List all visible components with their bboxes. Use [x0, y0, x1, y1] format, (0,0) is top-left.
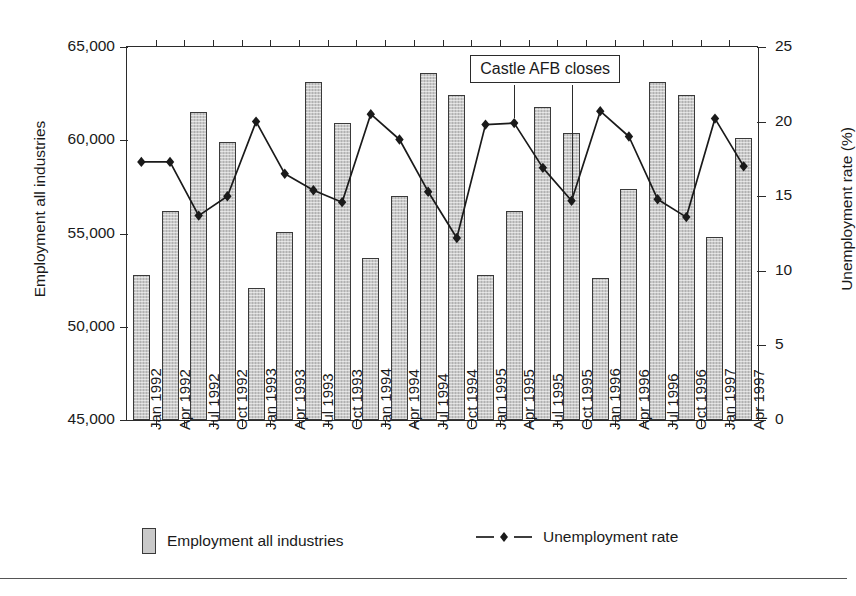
x-tick-top [615, 40, 616, 47]
annotation-leader-line [572, 85, 573, 196]
x-tick-top [729, 40, 730, 47]
x-tick-label: Apr 1996 [635, 369, 652, 430]
x-tick-top [701, 40, 702, 47]
line-series-unemployment [127, 47, 758, 420]
x-tick-label: Apr 1993 [291, 369, 308, 430]
y-tick-label-right: 25 [775, 37, 792, 55]
legend-label-employment: Employment all industries [167, 532, 344, 550]
x-tick-top [242, 40, 243, 47]
x-tick-top [672, 40, 673, 47]
axis-right-line [758, 47, 759, 420]
y-tick-label-left: 50,000 [68, 317, 115, 335]
line-marker-diamond [281, 169, 289, 179]
y-tick-label-left: 65,000 [68, 37, 115, 55]
x-tick-top [443, 40, 444, 47]
y-tick-right [757, 122, 766, 123]
x-tick-top [184, 40, 185, 47]
y-tick-right [757, 47, 766, 48]
line-marker-diamond [481, 119, 489, 129]
y-tick-label-right: 0 [775, 410, 784, 428]
x-tick-top [356, 40, 357, 47]
bar-swatch-icon [142, 528, 156, 554]
y-tick-label-right: 5 [775, 335, 784, 353]
x-tick-label: Jul 1993 [319, 373, 336, 430]
x-tick-top [557, 40, 558, 47]
x-tick-top [500, 40, 501, 47]
y-tick-label-right: 10 [775, 261, 792, 279]
plot-area: 45,00050,00055,00060,00065,000 051015202… [127, 47, 758, 420]
legend-item-unemployment: Unemployment rate [476, 528, 678, 546]
line-marker-diamond [653, 194, 661, 204]
y-axis-left-title: Employment all industries [31, 79, 49, 339]
x-tick-label: Jan 1996 [606, 368, 623, 430]
legend-label-unemployment: Unemployment rate [543, 528, 678, 546]
line-marker-diamond [137, 157, 145, 167]
line-marker-diamond [309, 185, 317, 195]
x-tick-label: Apr 1994 [405, 369, 422, 430]
legend-item-employment: Employment all industries [142, 528, 344, 554]
x-tick-label: Jul 1996 [664, 373, 681, 430]
annotation-leader-line [514, 85, 515, 118]
x-tick-top [586, 40, 587, 47]
x-tick-top [529, 40, 530, 47]
bottom-divider-rule [0, 578, 847, 579]
annotation-castle-afb-closes: Castle AFB closes [470, 55, 620, 83]
x-tick-label: Oct 1993 [348, 369, 365, 430]
dashed-line-diamond-icon [476, 531, 532, 543]
x-tick-top [471, 40, 472, 47]
y-tick-right [757, 271, 766, 272]
x-tick-top [156, 40, 157, 47]
line-marker-diamond [223, 191, 231, 201]
line-marker-diamond [338, 197, 346, 207]
x-tick-label: Apr 1992 [176, 369, 193, 430]
x-tick-label: Jan 1994 [377, 368, 394, 430]
x-tick-top [299, 40, 300, 47]
y-axis-right-title: Unemployment rate (%) [838, 79, 856, 339]
y-tick-label-left: 55,000 [68, 224, 115, 242]
y-tick-left [120, 420, 128, 421]
x-tick-top [328, 40, 329, 47]
x-tick-label: Apr 1995 [520, 369, 537, 430]
x-tick-top [643, 40, 644, 47]
line-marker-diamond [195, 210, 203, 220]
x-tick-top [270, 40, 271, 47]
y-tick-label-right: 15 [775, 186, 792, 204]
x-tick-label: Jul 1992 [205, 373, 222, 430]
x-tick-label: Jan 1993 [262, 368, 279, 430]
x-tick-label: Oct 1994 [463, 369, 480, 430]
y-tick-label-right: 20 [775, 112, 792, 130]
x-tick-label: Apr 1997 [750, 369, 767, 430]
x-tick-top [414, 40, 415, 47]
chart-legend: Employment all industries Unemployment r… [0, 526, 847, 560]
x-tick-label: Jul 1995 [549, 373, 566, 430]
line-marker-diamond [682, 212, 690, 222]
x-tick-label: Oct 1995 [578, 369, 595, 430]
x-tick-top [385, 40, 386, 47]
x-tick-label: Jul 1994 [434, 373, 451, 430]
x-tick-label: Oct 1992 [233, 369, 250, 430]
x-tick-top [213, 40, 214, 47]
y-tick-right [757, 345, 766, 346]
y-tick-label-left: 45,000 [68, 410, 115, 428]
y-tick-right [757, 196, 766, 197]
y-tick-label-left: 60,000 [68, 130, 115, 148]
x-tick-label: Jan 1997 [721, 368, 738, 430]
x-tick-label: Oct 1996 [692, 369, 709, 430]
line-marker-diamond [166, 157, 174, 167]
x-tick-label: Jan 1995 [492, 368, 509, 430]
x-tick-label: Jan 1992 [147, 368, 164, 430]
